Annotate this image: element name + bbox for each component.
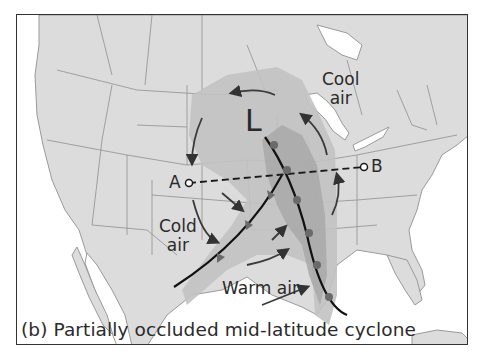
point-b-label: B bbox=[371, 157, 383, 176]
low-pressure-center-label: L bbox=[245, 103, 262, 138]
cold-air-label-line1: Cold bbox=[159, 217, 197, 236]
cool-air-label-line1: Cool bbox=[322, 70, 359, 89]
cool-air-label-line2: air bbox=[322, 89, 359, 108]
cold-air-label-line2: air bbox=[159, 236, 197, 255]
cuba bbox=[412, 330, 468, 345]
warm-air-label: Warm air bbox=[222, 279, 299, 298]
point-a-label: A bbox=[169, 173, 181, 192]
cool-air-label: Cool air bbox=[322, 70, 359, 108]
cold-air-label: Cold air bbox=[159, 217, 197, 255]
figure-caption: (b) Partially occluded mid-latitude cycl… bbox=[21, 319, 416, 340]
point-b-marker bbox=[361, 164, 368, 171]
point-a-marker bbox=[186, 180, 193, 187]
map-figure: L Cool air Cold air Warm air A B (b) Par… bbox=[16, 14, 468, 345]
